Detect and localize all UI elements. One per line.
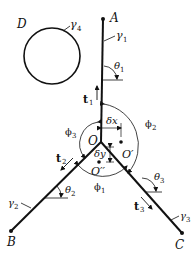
label-O-prime: O′ xyxy=(122,148,134,161)
svg-text:3: 3 xyxy=(186,216,190,224)
svg-text:1: 1 xyxy=(120,66,124,74)
label-theta1: θ 1 xyxy=(114,60,124,74)
label-t3: t 3 xyxy=(134,200,144,214)
svg-text:4: 4 xyxy=(77,25,82,33)
label-B: B xyxy=(6,235,16,249)
svg-text:γ: γ xyxy=(70,18,77,31)
svg-text:ϕ: ϕ xyxy=(65,126,72,137)
svg-text:1: 1 xyxy=(101,187,105,195)
point-O-prime xyxy=(119,140,123,144)
svg-text:2: 2 xyxy=(71,190,75,198)
label-phi2: ϕ 2 xyxy=(145,118,156,132)
label-delta-x: δx xyxy=(106,115,118,126)
label-O: O xyxy=(88,134,98,148)
label-gamma2: γ 2 xyxy=(8,197,18,211)
label-O-double-prime: O′′ xyxy=(91,165,106,178)
svg-text:2: 2 xyxy=(62,158,66,166)
label-D: D xyxy=(16,17,27,31)
curve-gamma1 xyxy=(101,19,103,142)
point-A xyxy=(101,17,105,21)
point-B xyxy=(9,229,13,233)
label-C: C xyxy=(175,238,184,252)
label-gamma4: γ 4 xyxy=(70,18,82,33)
label-theta2: θ 2 xyxy=(65,184,75,198)
gamma2-leader xyxy=(21,203,31,208)
label-phi3: ϕ 3 xyxy=(65,126,76,140)
label-phi1: ϕ 1 xyxy=(94,181,105,195)
label-gamma3: γ 3 xyxy=(180,210,190,224)
point-C xyxy=(180,231,184,235)
point-O-double-prime xyxy=(97,160,101,164)
curve-gamma3 xyxy=(101,142,182,233)
svg-text:2: 2 xyxy=(14,203,18,211)
svg-text:γ: γ xyxy=(116,29,123,42)
label-t1: t 1 xyxy=(83,93,93,107)
svg-text:ϕ: ϕ xyxy=(94,181,101,192)
circle-gamma4 xyxy=(24,28,80,84)
label-gamma1: γ 1 xyxy=(116,29,127,44)
gamma3-leader xyxy=(171,216,179,220)
svg-text:3: 3 xyxy=(140,206,144,214)
label-t2: t 2 xyxy=(56,152,66,166)
gamma4-leader xyxy=(63,26,70,31)
svg-text:1: 1 xyxy=(123,36,127,44)
svg-text:ϕ: ϕ xyxy=(145,118,152,129)
label-A: A xyxy=(109,11,119,25)
theta2-arc xyxy=(57,186,61,197)
triple-junction-diagram: D γ 4 A γ 1 θ 1 t 1 B γ 2 θ 2 t 2 xyxy=(0,0,196,259)
svg-text:1: 1 xyxy=(89,99,93,107)
label-theta3: θ 3 xyxy=(154,171,164,185)
svg-text:3: 3 xyxy=(160,177,164,185)
label-delta-y: δy xyxy=(94,148,106,159)
svg-text:2: 2 xyxy=(152,124,156,132)
gamma1-leader xyxy=(104,36,115,41)
svg-text:3: 3 xyxy=(72,132,76,140)
